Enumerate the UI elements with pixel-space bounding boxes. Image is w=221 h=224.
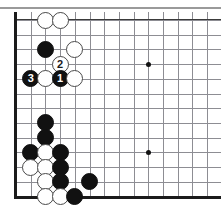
grid-line-horizontal	[16, 108, 221, 109]
stone-move-number	[38, 145, 53, 160]
grid-line-vertical	[75, 12, 76, 196]
stone-move-number: 3	[23, 71, 38, 86]
go-diagram-figure: 231	[0, 0, 221, 224]
stone-move-number	[23, 160, 38, 175]
top-divider-rule	[0, 7, 221, 9]
stone-move-number	[67, 189, 82, 204]
grid-line-vertical	[134, 12, 135, 196]
grid-line-vertical	[192, 12, 193, 196]
stone-move-number	[67, 42, 82, 57]
stone-move-number	[38, 42, 53, 57]
stone-move-number	[67, 71, 82, 86]
white-stone-e5[interactable]	[66, 70, 83, 87]
star-point-upper-right	[146, 62, 151, 67]
stone-move-number	[53, 145, 68, 160]
black-stone-e13[interactable]	[66, 188, 83, 205]
stone-move-number	[38, 13, 53, 28]
grid-line-vertical	[207, 12, 208, 196]
grid-line-horizontal	[16, 94, 221, 95]
stone-move-number	[38, 71, 53, 86]
stone-move-number	[53, 13, 68, 28]
board-edge-left	[14, 12, 17, 198]
grid-line-vertical	[104, 12, 105, 196]
star-point-lower-right	[146, 150, 151, 155]
white-stone-e3[interactable]	[66, 41, 83, 58]
grid-line-vertical	[148, 12, 149, 196]
go-board[interactable]: 231	[0, 12, 221, 212]
black-stone-f12[interactable]	[81, 173, 98, 190]
grid-line-horizontal	[16, 35, 221, 36]
stone-move-number	[38, 130, 53, 145]
grid-line-vertical	[178, 12, 179, 196]
black-stone-c3[interactable]	[37, 41, 54, 58]
grid-line-horizontal	[16, 64, 221, 65]
grid-line-vertical	[163, 12, 164, 196]
stone-move-number	[53, 174, 68, 189]
stone-move-number	[23, 145, 38, 160]
grid-line-vertical	[90, 12, 91, 196]
stone-move-number	[38, 189, 53, 204]
stone-move-number	[82, 174, 97, 189]
stone-move-number	[38, 174, 53, 189]
white-stone-d1[interactable]	[52, 12, 69, 29]
grid-line-vertical	[119, 12, 120, 196]
